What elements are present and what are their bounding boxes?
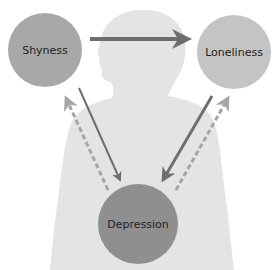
node-depression-label: Depression	[107, 218, 169, 231]
node-loneliness: Loneliness	[197, 15, 271, 89]
node-shyness-label: Shyness	[22, 44, 68, 57]
shyness-loneliness-depression-diagram: Shyness Loneliness Depression	[0, 0, 277, 270]
node-depression: Depression	[98, 184, 178, 264]
node-loneliness-label: Loneliness	[205, 46, 263, 59]
node-shyness: Shyness	[8, 13, 82, 87]
